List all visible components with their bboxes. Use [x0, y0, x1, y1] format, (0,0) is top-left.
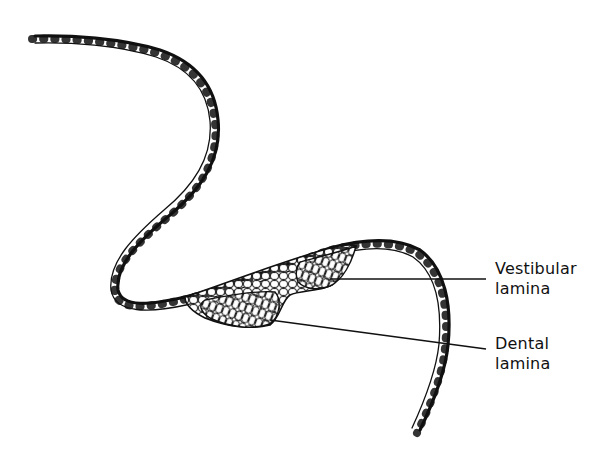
dental-label-line1: Dental — [495, 334, 550, 354]
vestibular-label-line2: lamina — [495, 279, 577, 299]
epithelium-outline — [32, 36, 449, 433]
dental-leader-line — [270, 320, 486, 349]
embryonic-epithelium-diagram — [0, 0, 611, 457]
dental-lamina-label: Dental lamina — [495, 334, 550, 374]
vestibular-lamina-label: Vestibular lamina — [495, 259, 577, 299]
laminae-cell-mass — [185, 245, 356, 327]
dental-label-line2: lamina — [495, 354, 550, 374]
vestibular-label-line1: Vestibular — [495, 259, 577, 279]
